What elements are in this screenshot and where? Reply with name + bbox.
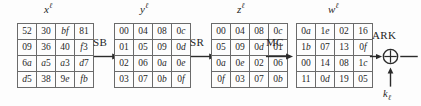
op-sb-label: SB xyxy=(93,36,107,48)
cell: 1e xyxy=(316,24,335,40)
cell: 16 xyxy=(354,24,373,40)
cell: 04 xyxy=(134,24,153,40)
cell: 03 xyxy=(231,72,250,88)
cell: d7 xyxy=(75,56,94,72)
cell: 03 xyxy=(115,72,134,88)
cell: 81 xyxy=(75,24,94,40)
state-w-matrix: 0a 1e 02 16 1b 07 13 0f 00 14 08 1c 11 0… xyxy=(296,23,373,88)
cell: 07 xyxy=(316,40,335,56)
cell: 02 xyxy=(115,56,134,72)
cell: 0b xyxy=(269,72,288,88)
arrow-into-xor-icon xyxy=(369,53,383,60)
cell: a3 xyxy=(56,56,75,72)
cell: 05 xyxy=(212,40,231,56)
cell: 0e xyxy=(231,56,250,72)
cell: 38 xyxy=(37,72,56,88)
cell: 08 xyxy=(153,24,172,40)
round-key-label: kℓ xyxy=(383,88,391,99)
table-row: 11 0d 19 05 xyxy=(297,72,373,88)
cell: a5 xyxy=(37,56,56,72)
arrow-output-icon xyxy=(399,53,419,60)
cell: 0d xyxy=(172,40,191,56)
table-row: 0a 1e 02 16 xyxy=(297,24,373,40)
aes-round-diagram: { "diagram": { "title": "AES round: SubB… xyxy=(0,0,421,106)
table-row: 0f 03 07 0b xyxy=(212,72,288,88)
cell: 00 xyxy=(212,24,231,40)
state-w-label: wℓ xyxy=(328,3,338,15)
cell: 1b xyxy=(297,40,316,56)
arrow-roundkey-icon xyxy=(387,66,394,88)
table-row: 01 05 09 0d xyxy=(115,40,191,56)
cell: 11 xyxy=(297,72,316,88)
cell: 05 xyxy=(134,40,153,56)
table-row: 00 04 08 0c xyxy=(115,24,191,40)
table-row: 52 30 bf 81 xyxy=(18,24,94,40)
cell: 40 xyxy=(56,40,75,56)
cell: 0a xyxy=(297,24,316,40)
state-y-matrix: 00 04 08 0c 01 05 09 0d 02 06 0a 0e 03 0… xyxy=(114,23,191,88)
cell: 04 xyxy=(231,24,250,40)
cell: d5 xyxy=(18,72,37,88)
cell: 09 xyxy=(153,40,172,56)
cell: 07 xyxy=(134,72,153,88)
table-row: 03 07 0b 0f xyxy=(115,72,191,88)
op-mc-label: MC xyxy=(266,36,284,48)
cell: 9e xyxy=(56,72,75,88)
table-row: 6a a5 a3 d7 xyxy=(18,56,94,72)
cell: 05 xyxy=(354,72,373,88)
cell: 0c xyxy=(172,24,191,40)
cell: 6a xyxy=(18,56,37,72)
table-row: 02 06 0a 0e xyxy=(115,56,191,72)
state-x-matrix: 52 30 bf 81 09 36 40 f3 6a a5 a3 d7 d5 3… xyxy=(17,23,94,88)
op-ark-label: ARK xyxy=(372,29,396,41)
cell: 00 xyxy=(297,56,316,72)
cell: 0d xyxy=(316,72,335,88)
table-row: 00 14 08 1c xyxy=(297,56,373,72)
table-row: 1b 07 13 0f xyxy=(297,40,373,56)
cell: 0f xyxy=(212,72,231,88)
xor-icon xyxy=(382,48,399,65)
cell: 07 xyxy=(250,72,269,88)
cell: bf xyxy=(56,24,75,40)
op-sr-label: SR xyxy=(190,36,204,48)
cell: 01 xyxy=(115,40,134,56)
cell: f3 xyxy=(75,40,94,56)
cell: 0b xyxy=(153,72,172,88)
cell: 09 xyxy=(18,40,37,56)
cell: 0e xyxy=(172,56,191,72)
table-row: 09 36 40 f3 xyxy=(18,40,94,56)
cell: 06 xyxy=(134,56,153,72)
cell: 08 xyxy=(335,56,354,72)
cell: 0a xyxy=(212,56,231,72)
cell: 0f xyxy=(172,72,191,88)
cell: 30 xyxy=(37,24,56,40)
table-row: d5 38 9e fb xyxy=(18,72,94,88)
cell: 00 xyxy=(115,24,134,40)
state-z-label: zℓ xyxy=(237,3,244,15)
cell: 02 xyxy=(335,24,354,40)
cell: 52 xyxy=(18,24,37,40)
cell: 36 xyxy=(37,40,56,56)
cell: 09 xyxy=(231,40,250,56)
cell: 13 xyxy=(335,40,354,56)
cell: fb xyxy=(75,72,94,88)
state-y-label: yℓ xyxy=(140,3,148,15)
cell: 0a xyxy=(153,56,172,72)
cell: 19 xyxy=(335,72,354,88)
state-x-label: xℓ xyxy=(44,3,52,15)
arrow-mc-icon xyxy=(264,53,295,60)
cell: 14 xyxy=(316,56,335,72)
